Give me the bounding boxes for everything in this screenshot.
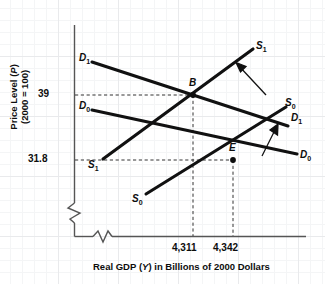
y-axis-title: Price Level (P) (2000 = 100) [9, 45, 31, 149]
point-e-marker [230, 157, 236, 163]
curve-label-d0-left: D0 [79, 101, 90, 113]
point-b-marker [190, 92, 196, 98]
curves [92, 49, 297, 194]
curve-label-d1-left: D1 [79, 53, 90, 65]
curve-label-d1-right: D1 [291, 113, 302, 125]
point-label-b: B [189, 78, 196, 88]
curve-label-d0-right: D0 [300, 150, 311, 162]
point-label-e: E [229, 143, 236, 153]
y-axis-title-line2: (2000 = 100) [19, 70, 30, 124]
curve-label-s1-right: S1 [256, 41, 267, 53]
curve-label-s1-left: S1 [88, 160, 99, 172]
x-tick-label-4311: 4,311 [172, 243, 196, 253]
y-axis-title-line1: Price Level (P) [8, 64, 19, 130]
y-tick-label-31-8: 31.8 [28, 154, 47, 164]
guide-lines [75, 95, 233, 236]
axis-lines [68, 25, 306, 242]
y-tick-label-39: 39 [38, 89, 49, 99]
x-axis-title: Real GDP (Y) in Billions of 2000 Dollars [93, 262, 270, 272]
chart-figure: Price Level (P) (2000 = 100) 39 31.8 4,3… [0, 0, 325, 284]
demand-shift-arrow [262, 124, 278, 156]
curve-label-s0-left: S0 [132, 194, 143, 206]
supply-shift-arrow [236, 63, 266, 96]
x-tick-label-4342: 4,342 [213, 243, 238, 253]
as-ad-plot [0, 0, 325, 284]
curve-label-s0-right: S0 [285, 98, 296, 110]
